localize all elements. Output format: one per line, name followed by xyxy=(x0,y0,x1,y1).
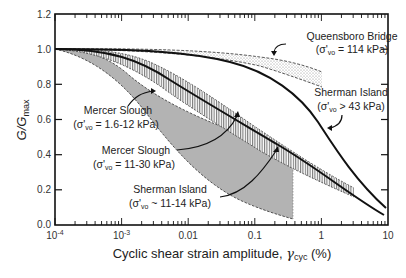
annotation-mercer-11-30-line1: Mercer Slough xyxy=(102,144,170,156)
y-tick-6: 1.2 xyxy=(37,9,51,20)
annotation-queensboro-line1: Queensboro Bridge xyxy=(306,30,397,42)
x-tick-3: 0.1 xyxy=(248,230,262,241)
y-tick-3: 0.6 xyxy=(37,114,51,125)
y-axis-title: G/Gmax xyxy=(14,99,31,140)
annotation-mercer-11-30-line2: (σ'vo = 11-30 kPa) xyxy=(93,158,175,171)
annotation-sherman-43-line1: Sherman Island xyxy=(314,86,388,98)
annotation-mercer-1-6-line2: (σ'vo = 1.6-12 kPa) xyxy=(73,118,159,131)
y-tick-1: 0.2 xyxy=(37,184,51,195)
x-tick-5: 10 xyxy=(382,230,394,241)
x-axis-title: Cyclic shear strain amplitude, γcyc (%) xyxy=(113,246,332,262)
x-tick-labels: 10-4 10-3 0.01 0.1 1 10 xyxy=(46,229,394,241)
y-tick-2: 0.4 xyxy=(37,149,51,160)
annotation-sherman-43-line2: (σ'vo > 43 kPa) xyxy=(317,100,385,113)
arrowhead-sherman-43-icon xyxy=(327,125,332,131)
arrowhead-queensboro-icon xyxy=(271,51,277,56)
x-tick-0: 10-4 xyxy=(46,229,63,241)
y-tick-5: 1.0 xyxy=(37,44,51,55)
annotation-sherman-11-14-line2: (σ'vo ~ 11-14 kPa) xyxy=(129,197,211,210)
x-tick-4: 1 xyxy=(319,230,325,241)
y-tick-0: 0.0 xyxy=(37,219,51,230)
annotation-sherman-11-14-line1: Sherman Island xyxy=(133,183,207,195)
x-tick-2: 0.01 xyxy=(178,230,198,241)
annotation-mercer-1-6-line1: Mercer Slough xyxy=(84,104,152,116)
y-tick-4: 0.8 xyxy=(37,79,51,90)
y-tick-labels: 0.0 0.2 0.4 0.6 0.8 1.0 1.2 xyxy=(37,9,51,231)
chart-canvas: 0.0 0.2 0.4 0.6 0.8 1.0 1.2 10-4 10-3 0.… xyxy=(0,0,406,278)
annotation-queensboro-line2: (σ'vo = 114 kPa) xyxy=(316,43,389,56)
x-tick-1: 10-3 xyxy=(113,229,130,241)
leader-queensboro xyxy=(274,44,286,52)
